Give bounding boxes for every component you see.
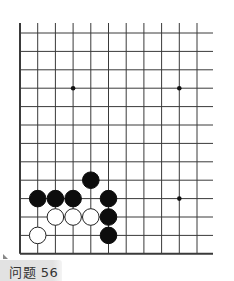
white-stone[interactable] [83, 209, 100, 226]
star-point-icon [177, 86, 182, 91]
black-stone[interactable] [47, 190, 64, 207]
white-stone[interactable] [29, 227, 46, 244]
problem-label: 问题 56 [9, 262, 58, 281]
star-point-icon [177, 196, 182, 201]
corner-marker-icon [3, 254, 8, 259]
problem-label-tab: 问题 56 [0, 260, 62, 281]
black-stone[interactable] [100, 227, 117, 244]
star-point-icon [71, 86, 76, 91]
go-board[interactable] [0, 0, 234, 258]
black-stone[interactable] [100, 190, 117, 207]
white-stone[interactable] [65, 209, 82, 226]
black-stone[interactable] [83, 172, 100, 189]
white-stone[interactable] [47, 209, 64, 226]
black-stone[interactable] [29, 190, 46, 207]
black-stone[interactable] [100, 209, 117, 226]
black-stone[interactable] [65, 190, 82, 207]
